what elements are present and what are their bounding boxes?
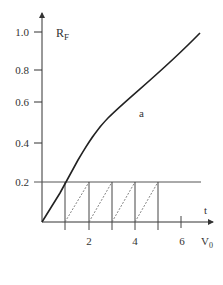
svg-text:6: 6	[179, 235, 185, 247]
svg-text:1.0: 1.0	[15, 26, 29, 38]
svg-text:0.6: 0.6	[15, 96, 29, 108]
chart: 1.0 0.8 0.6 0.4 0.2 RF 2 4 6 a t V0	[0, 0, 223, 285]
svg-text:4: 4	[132, 235, 138, 247]
x-ticks	[65, 182, 181, 230]
x-axis-label: V0	[201, 235, 213, 250]
curve-annotation: a	[139, 107, 144, 119]
y-ticks	[34, 32, 42, 143]
x-secondary-label: t	[204, 204, 207, 216]
svg-text:0.8: 0.8	[15, 64, 29, 76]
y-axis-label: RF	[56, 26, 69, 42]
svg-text:0.4: 0.4	[15, 137, 29, 149]
y-tick-labels: 1.0 0.8 0.6 0.4 0.2	[15, 26, 29, 188]
x-tick-labels: 2 4 6	[86, 235, 185, 247]
svg-text:2: 2	[86, 235, 92, 247]
curve-a	[42, 33, 200, 222]
svg-text:0.2: 0.2	[15, 176, 29, 188]
